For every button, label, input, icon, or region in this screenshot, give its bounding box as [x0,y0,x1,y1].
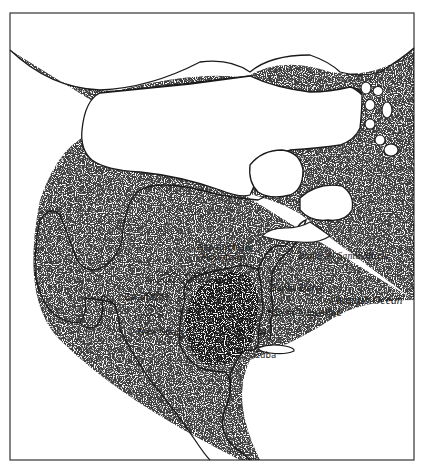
settlement-marker-icon [268,310,271,313]
label-new-spain: New Spain [138,328,184,337]
label-appalachian-line2: Mountains [197,253,251,262]
label-cuba: Cuba [254,351,276,360]
great-lake-1 [250,150,303,197]
map-canvas [0,0,421,467]
label-appalachian-mountains: Appalachian Mountains [197,243,251,261]
label-bahia-de-santa-maria: Bahia de Santa Mariá [298,251,389,261]
label-atlantic-ocean: Atlantic Ocean [332,295,403,307]
label-zacatecas: Zacatecas [124,293,169,302]
label-appalachian-line1: Appalachian [197,243,251,252]
label-saint-augustine: Saint Augustine [273,309,342,318]
label-santa-elena: Santa Elena [271,284,323,293]
